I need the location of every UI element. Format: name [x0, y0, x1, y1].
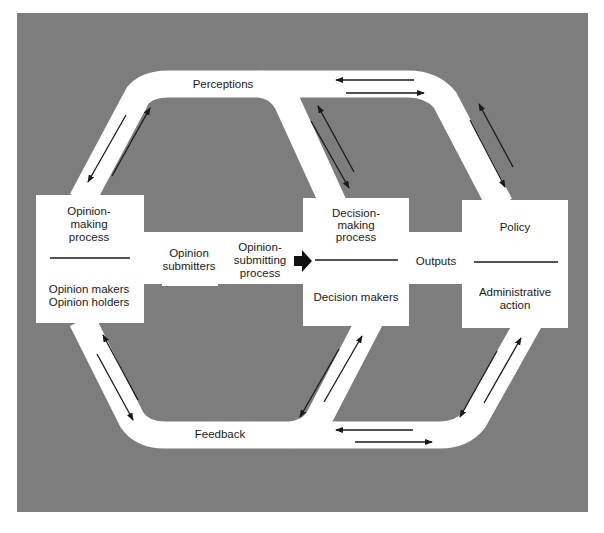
policy-process-diagram: Perceptions Feedback Opinion- making pro…: [0, 0, 604, 533]
opinion-makers-line-2: Opinion holders: [49, 296, 130, 308]
policy-label: Policy: [500, 221, 531, 233]
perceptions-label: Perceptions: [193, 78, 254, 90]
opinion-submitting-line-3: process: [240, 267, 281, 279]
feedback-label: Feedback: [195, 428, 246, 440]
opinion-making-process-line-3: process: [69, 231, 110, 243]
opinion-making-process-line-2: making: [70, 218, 107, 230]
decision-making-process-line-2: making: [337, 219, 374, 231]
opinion-submitters-line-1: Opinion: [169, 247, 209, 259]
opinion-makers-line-1: Opinion makers: [49, 283, 130, 295]
opinion-submitters-line-2: submitters: [162, 260, 215, 272]
administrative-action-line-1: Administrative: [479, 286, 551, 298]
decision-making-process-line-3: process: [336, 231, 377, 243]
opinion-submitting-line-2: submitting: [234, 254, 286, 266]
opinion-submitting-line-1: Opinion-: [238, 241, 282, 253]
outputs-label: Outputs: [416, 255, 457, 267]
decision-making-process-line-1: Decision-: [332, 207, 380, 219]
opinion-submitters-box: [162, 232, 218, 286]
opinion-making-process-line-1: Opinion-: [67, 205, 111, 217]
decision-makers-label: Decision makers: [314, 291, 399, 303]
administrative-action-line-2: action: [500, 299, 531, 311]
